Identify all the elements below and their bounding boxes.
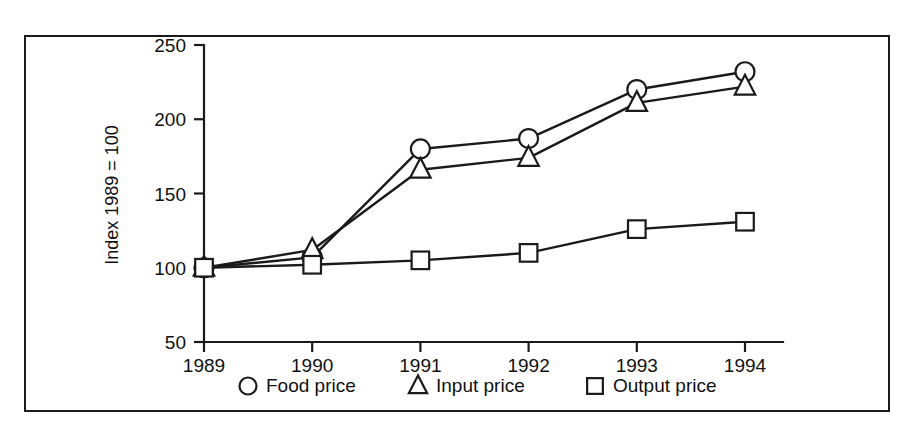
series-line: [204, 72, 745, 268]
marker-square: [412, 252, 430, 270]
chart-figure: 50100150200250 198919901991199219931994 …: [0, 0, 913, 437]
marker-triangle: [518, 146, 538, 166]
series-markers-triangle: [194, 75, 755, 276]
marker-circle: [240, 378, 257, 395]
y-axis-title: Index 1989 = 100: [102, 125, 122, 265]
x-tick-label: 1992: [507, 355, 549, 376]
marker-square: [195, 259, 213, 277]
marker-square: [628, 220, 646, 238]
x-tick-label: 1993: [616, 355, 658, 376]
series-line: [204, 87, 745, 268]
series-triangle: [204, 87, 745, 268]
legend-item-input-price[interactable]: Input price: [409, 375, 525, 396]
line-chart: 50100150200250 198919901991199219931994 …: [0, 0, 913, 437]
legend-label: Output price: [613, 375, 717, 396]
series-container: [194, 62, 755, 277]
chart-legend: Food priceInput priceOutput price: [240, 375, 717, 396]
legend-label: Food price: [266, 375, 356, 396]
legend-item-food-price[interactable]: Food price: [240, 375, 356, 396]
marker-triangle: [409, 375, 427, 393]
y-tick-label: 250: [154, 35, 186, 56]
series-markers-square: [195, 213, 754, 277]
series-circle: [204, 72, 745, 268]
y-tick-label: 100: [154, 258, 186, 279]
x-tick-label: 1991: [399, 355, 441, 376]
marker-square: [587, 378, 603, 394]
legend-label: Input price: [436, 375, 525, 396]
y-axis: 50100150200250: [154, 35, 204, 353]
y-tick-label: 200: [154, 109, 186, 130]
marker-square: [303, 256, 321, 274]
legend-item-output-price[interactable]: Output price: [587, 375, 716, 396]
x-tick-label: 1989: [183, 355, 225, 376]
marker-square: [736, 213, 754, 231]
x-tick-label: 1994: [724, 355, 767, 376]
marker-square: [520, 244, 538, 262]
x-axis: 198919901991199219931994: [183, 342, 783, 376]
x-tick-label: 1990: [291, 355, 333, 376]
y-tick-label: 50: [165, 332, 186, 353]
series-markers-circle: [195, 62, 755, 277]
y-tick-label: 150: [154, 184, 186, 205]
